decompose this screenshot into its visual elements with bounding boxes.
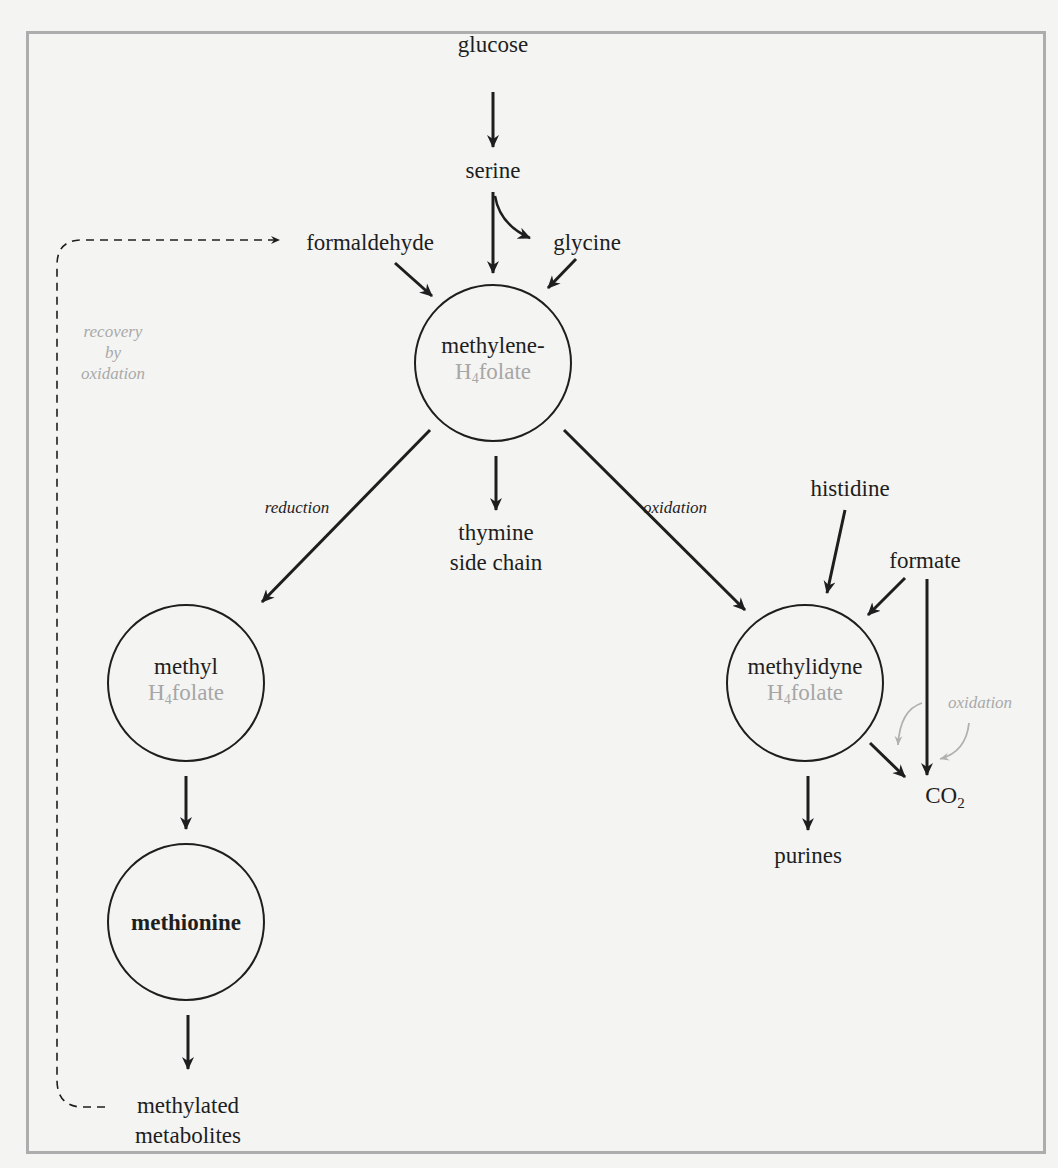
label-glycine: glycine [553, 231, 621, 254]
label-formaldehyde: formaldehyde [306, 231, 434, 254]
label-recovery-line3: oxidation [81, 363, 145, 384]
node-methylene-name: methylene- [441, 333, 544, 359]
label-methylated-line2: metabolites [135, 1121, 241, 1151]
node-methylidyne-h4folate: methylidyne H4folate [748, 654, 863, 713]
label-thymine-line1: thymine [450, 518, 543, 548]
arrow-formaldehyde-methylene [395, 263, 432, 296]
label-co2: CO2 [925, 784, 964, 811]
label-methylated-metabolites: methylated metabolites [135, 1091, 241, 1151]
arrow-oxidation [564, 430, 745, 610]
arrow-formate-methylidyne [868, 578, 905, 615]
label-methylated-line1: methylated [135, 1091, 241, 1121]
label-thymine-side-chain: thymine side chain [450, 518, 543, 578]
label-reduction: reduction [265, 499, 330, 516]
label-oxidation-co2: oxidation [948, 694, 1012, 711]
node-methyl-cofactor: H4folate [148, 680, 224, 713]
label-thymine-line2: side chain [450, 548, 543, 578]
node-methylene-h4folate: methylene- H4folate [441, 333, 544, 392]
label-serine: serine [466, 159, 521, 182]
node-methyl-h4folate: methyl H4folate [148, 654, 224, 713]
node-methylidyne-name: methylidyne [748, 654, 863, 680]
arrow-serine-glycine [495, 196, 530, 238]
node-methyl-name: methyl [148, 654, 224, 680]
pathway-diagram [0, 0, 1058, 1168]
label-purines: purines [774, 844, 842, 867]
node-methylene-cofactor: H4folate [441, 359, 544, 392]
label-recovery-line1: recovery [81, 321, 145, 342]
label-oxidation-main: oxidation [643, 499, 707, 516]
label-formate: formate [889, 549, 961, 572]
label-glucose: glucose [458, 33, 528, 56]
arrow-methylidyne-co2 [870, 743, 905, 777]
arrow-glycine-methylene [548, 259, 576, 288]
oxidation-curve-left-icon [898, 703, 922, 745]
label-recovery-by-oxidation: recovery by oxidation [81, 321, 145, 384]
arrow-histidine-methylidyne [827, 510, 845, 593]
label-histidine: histidine [810, 477, 889, 500]
node-methylidyne-cofactor: H4folate [748, 680, 863, 713]
oxidation-curve-right-icon [940, 723, 969, 759]
label-recovery-line2: by [81, 342, 145, 363]
node-methionine: methionine [131, 911, 241, 934]
